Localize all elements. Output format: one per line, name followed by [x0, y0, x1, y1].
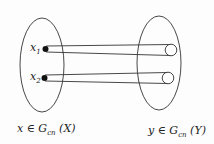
point-sub: 2 — [36, 77, 40, 85]
label-g: G — [38, 122, 47, 135]
label-g: G — [169, 124, 178, 137]
label-arg: (X) — [56, 122, 76, 135]
label-arg: (Y) — [187, 124, 206, 137]
label-sub: cn — [178, 131, 186, 139]
mapping-diagram: x1 x2 x ∈ Gcn (X) y ∈ Gcn (Y) — [0, 0, 214, 144]
left-set-label: x ∈ Gcn (X) — [17, 122, 76, 137]
label-sub: cn — [47, 129, 55, 137]
image-circle-y2 — [162, 72, 174, 84]
point-sub: 1 — [36, 48, 40, 56]
right-set-ellipse — [137, 16, 181, 110]
mapping-band-x2 — [42, 72, 174, 84]
image-circle-y1 — [165, 44, 177, 56]
label-in: ∈ — [154, 124, 169, 137]
label-in: ∈ — [23, 122, 38, 135]
left-set-ellipse — [20, 18, 64, 112]
point-dot-x2 — [42, 75, 48, 81]
point-dot-x1 — [43, 46, 49, 52]
right-set-label: y ∈ Gcn (Y) — [148, 124, 206, 139]
point-label-x2: x2 — [30, 70, 41, 85]
point-label-x1: x1 — [30, 41, 41, 56]
